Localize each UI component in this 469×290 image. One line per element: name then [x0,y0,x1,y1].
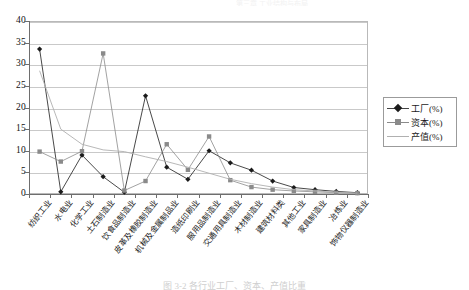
data-point-1-10 [249,185,253,189]
legend-label-capital: 资本(%) [411,116,443,129]
data-point-1-7 [186,168,190,172]
legend-label-factories: 工厂(%) [411,102,443,115]
legend-label-output-value: 产值(%) [411,130,443,143]
series-line-0 [40,49,358,193]
legend-marker-line-icon [387,131,409,141]
legend-item-capital[interactable]: 资本(%) [387,115,452,129]
data-point-0-9 [228,160,233,165]
data-point-1-11 [270,187,274,191]
series-line-2 [40,71,358,193]
legend-marker-square-icon [387,117,409,127]
legend-marker-diamond-icon [387,103,409,113]
data-point-0-10 [249,168,254,173]
data-point-1-6 [165,142,169,146]
data-point-1-13 [313,190,317,194]
data-point-1-3 [101,51,105,55]
data-point-1-2 [80,149,84,153]
series-line-1 [40,53,358,193]
legend-item-output-value[interactable]: 产值(%) [387,129,452,143]
data-point-1-0 [37,149,41,153]
figure-caption: 图 3-2 各行业工厂、资本、产值比重 [0,279,469,290]
data-point-1-5 [143,179,147,183]
data-point-0-5 [143,93,148,98]
data-point-0-6 [164,165,169,170]
data-point-1-8 [207,134,211,138]
data-point-0-0 [37,47,42,52]
chart-legend: 工厂(%) 资本(%) 产值(%) [383,97,457,147]
data-point-1-1 [59,159,63,163]
data-point-1-4 [122,188,126,192]
legend-item-factories[interactable]: 工厂(%) [387,101,452,115]
chart-figure: 第三章 工业结构与布局 0510152025303540 纺织工业水电业化学工业… [0,0,469,290]
data-point-0-11 [270,178,275,183]
data-point-0-1 [58,189,63,194]
